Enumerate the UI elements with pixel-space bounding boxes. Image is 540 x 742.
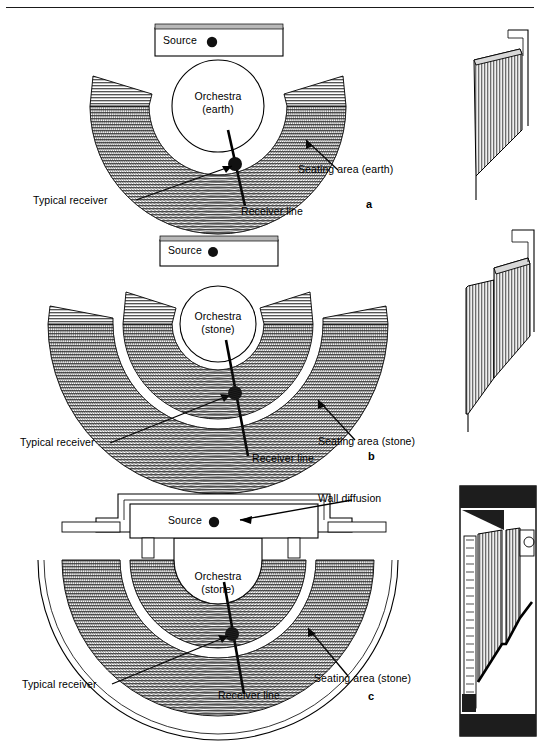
receiver-line-label-b: Receiver line	[252, 452, 314, 464]
receiver-line-label-a: Receiver line	[241, 205, 303, 217]
seating-area-label-a: Seating area (earth)	[298, 163, 393, 175]
seating-area-label-c: Seating area (stone)	[314, 672, 411, 684]
source-point-c	[209, 517, 219, 527]
stage-support-left-c	[142, 538, 154, 558]
section-stage-inner-b	[512, 230, 528, 262]
plan-view-b	[0, 228, 450, 470]
panel-letter-b: b	[368, 450, 375, 462]
wall-diffusion-comb-c	[464, 536, 476, 708]
plan-view-a	[0, 10, 450, 222]
section-cavea-upper-b	[466, 280, 494, 414]
typical-receiver-label-b: Typical receiver	[20, 436, 95, 448]
figure-page: Source Orchestra (earth) Seating area (e…	[0, 0, 540, 742]
seating-area-label-b: Seating area (stone)	[318, 435, 415, 447]
orchestra-label-c-line2: (stone)	[186, 583, 250, 595]
orchestra-label-b-line1: Orchestra	[186, 310, 250, 322]
parodos-right-c	[328, 522, 386, 532]
typical-receiver-label-c: Typical receiver	[22, 678, 97, 690]
top-rule	[6, 7, 534, 8]
stage-support-right-c	[288, 538, 300, 558]
panel-b: Source Orchestra (stone) Seating area (s…	[0, 228, 540, 470]
source-point-a	[207, 37, 217, 47]
section-view-c	[458, 484, 540, 740]
section-view-a	[466, 18, 540, 218]
orchestra-label-c-line1: Orchestra	[186, 570, 250, 582]
section-floor-c	[460, 714, 536, 736]
section-roof-c	[460, 486, 536, 508]
orchestra-label-b-line2: (stone)	[186, 323, 250, 335]
panel-letter-c: c	[368, 690, 374, 702]
section-stage-box-c	[520, 530, 534, 556]
orchestra-label-a-line2: (earth)	[186, 103, 250, 115]
receiver-line-label-c: Receiver line	[218, 689, 280, 701]
source-box-c	[130, 504, 318, 538]
section-pier-c	[462, 694, 476, 712]
section-cavea-lower-b	[494, 258, 530, 378]
source-label-c: Source	[168, 514, 202, 526]
source-label-b: Source	[168, 244, 202, 256]
typical-receiver-dot-a	[228, 157, 242, 171]
section-view-b	[466, 228, 540, 468]
typical-receiver-label-a: Typical receiver	[33, 194, 108, 206]
section-cavea-lower-c	[506, 528, 520, 644]
panel-letter-a: a	[366, 198, 372, 210]
panel-a: Source Orchestra (earth) Seating area (e…	[0, 10, 540, 222]
orchestra-label-a-line1: Orchestra	[186, 90, 250, 102]
source-point-b	[208, 247, 218, 257]
section-cavea-upper-c	[478, 530, 502, 682]
parodos-left-c	[62, 522, 120, 532]
section-cavea-a	[474, 49, 522, 176]
source-label-a: Source	[163, 34, 197, 46]
wall-diffusion-label-c: Wall diffusion	[318, 492, 381, 504]
panel-c: Wall diffusion Source Orchestra (stone) …	[0, 476, 540, 742]
plan-view-c	[0, 476, 450, 742]
